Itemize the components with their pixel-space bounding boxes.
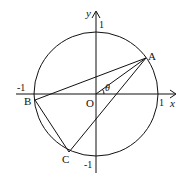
y-axis-label: y xyxy=(85,7,91,19)
angle-theta-label: θ xyxy=(105,82,110,93)
point-A-label: A xyxy=(148,50,156,62)
y-tick-pos: 1 xyxy=(99,19,104,30)
x-tick-neg: -1 xyxy=(17,82,25,93)
x-tick-pos: 1 xyxy=(159,97,164,108)
origin-label: O xyxy=(86,97,94,109)
diagram-canvas: y 1 -1 1 x -1 O θ A B C xyxy=(0,0,186,184)
y-tick-neg: -1 xyxy=(84,159,92,170)
x-axis-label: x xyxy=(169,97,175,109)
unit-circle-diagram: y 1 -1 1 x -1 O θ A B C xyxy=(0,0,186,184)
point-B-label: B xyxy=(24,95,31,107)
angle-arc xyxy=(103,89,105,94)
point-C-label: C xyxy=(62,153,69,165)
segment-BC xyxy=(35,100,69,152)
